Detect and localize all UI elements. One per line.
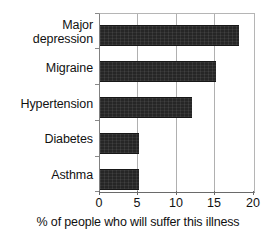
category-label-migraine: Migraine <box>0 62 93 76</box>
xtick-20 <box>253 191 254 195</box>
category-label-diabetes: Diabetes <box>0 133 93 147</box>
xtick-label-15: 15 <box>199 196 229 210</box>
xtick-label-10: 10 <box>161 196 191 210</box>
bar-migraine <box>100 61 216 82</box>
category-label-hypertension: Hypertension <box>0 98 93 112</box>
ytick-3 <box>95 120 99 121</box>
bar-asthma <box>100 169 139 190</box>
plot-area <box>99 13 255 193</box>
xtick-label-5: 5 <box>122 196 152 210</box>
xtick-0 <box>99 191 100 195</box>
bar-hypertension <box>100 97 192 118</box>
ytick-2 <box>95 84 99 85</box>
bar-chart: Major depression Migraine Hypertension D… <box>0 0 276 240</box>
xtick-10 <box>176 191 177 195</box>
category-label-asthma: Asthma <box>0 169 93 183</box>
category-label-major-depression: Major depression <box>0 19 93 46</box>
bar-major-depression <box>100 25 239 46</box>
category-axis-labels: Major depression Migraine Hypertension D… <box>0 13 93 191</box>
ytick-4 <box>95 156 99 157</box>
xtick-label-20: 20 <box>238 196 268 210</box>
xtick-5 <box>137 191 138 195</box>
xtick-15 <box>214 191 215 195</box>
xtick-label-0: 0 <box>84 196 114 210</box>
x-axis-title: % of people who will suffer this illness <box>0 215 276 230</box>
bar-diabetes <box>100 133 139 154</box>
ytick-1 <box>95 48 99 49</box>
ytick-0 <box>95 13 99 14</box>
